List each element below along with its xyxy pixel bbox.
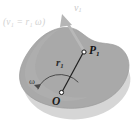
formula-annotation: (v₁ = r₁ ω) [3,18,45,28]
velocity-label-subscript: 1 [78,6,81,13]
omega-label-text: ω [29,76,35,86]
radius-label-subscript: 1 [60,62,63,69]
point-label-subscript: 1 [96,50,100,58]
origin-marker-o [59,90,63,94]
velocity-arrowhead-icon [60,14,72,27]
rigid-body-rotation-figure: (v₁ = r₁ ω) v1 r1 P1 O ω [0,0,137,129]
formula-text: (v₁ = r₁ ω) [3,17,45,27]
point-label-base: P [89,44,96,56]
origin-label-text: O [52,95,60,107]
point-marker-p1 [82,50,86,54]
omega-label: ω [29,77,35,86]
point-label-p1: P1 [89,45,100,58]
velocity-label: v1 [74,3,82,14]
radius-label: r1 [56,57,64,69]
origin-label-o: O [52,96,60,108]
